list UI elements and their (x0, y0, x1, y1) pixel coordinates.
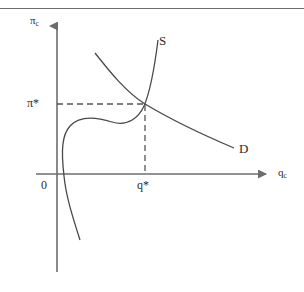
supply-curve-label: S (159, 33, 166, 49)
x-axis-label-base: q (278, 166, 284, 178)
demand-curve-label: D (239, 141, 248, 157)
x-axis-label: qc (278, 166, 287, 178)
origin-label: 0 (41, 178, 47, 193)
y-axis-label-subscript: c (36, 19, 39, 28)
equilibrium-quantity-tick-star: * (143, 178, 149, 192)
figure-root: πc qc π* q* 0 S D (0, 0, 304, 292)
equilibrium-price-tick-label: π* (27, 96, 39, 111)
equilibrium-price-tick-star: * (33, 96, 39, 110)
equilibrium-quantity-tick-label: q* (137, 178, 149, 193)
y-axis-label-base: π (30, 14, 36, 26)
supply-curve (62, 40, 158, 240)
y-axis-label: πc (30, 14, 39, 26)
demand-curve (95, 53, 234, 148)
plot-canvas (0, 0, 304, 292)
x-axis-label-subscript: c (284, 171, 287, 180)
